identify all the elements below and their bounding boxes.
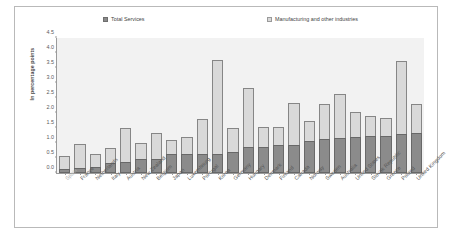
stacked-bar[interactable]: [243, 88, 254, 173]
stacked-bar[interactable]: [120, 128, 131, 173]
bar-column[interactable]: [302, 38, 317, 173]
bar-segment-manufacturing[interactable]: [334, 94, 345, 138]
bar-column[interactable]: [195, 38, 210, 173]
bar-column[interactable]: [57, 38, 72, 173]
bar-column[interactable]: [72, 38, 87, 173]
bar-segment-manufacturing[interactable]: [243, 88, 254, 147]
bar-column[interactable]: [271, 38, 286, 173]
stacked-bar[interactable]: [288, 103, 299, 173]
stacked-bar[interactable]: [319, 104, 330, 173]
bar-segment-manufacturing[interactable]: [365, 116, 376, 136]
bar-column[interactable]: [225, 38, 240, 173]
bar-segment-manufacturing[interactable]: [227, 128, 238, 152]
bar-segment-manufacturing[interactable]: [120, 128, 131, 162]
bar-column[interactable]: [286, 38, 301, 173]
bar-segment-manufacturing[interactable]: [319, 104, 330, 139]
bar-segment-manufacturing[interactable]: [59, 156, 70, 169]
bar-column[interactable]: [103, 38, 118, 173]
legend-item-manufacturing: Manufacturing and other industries: [267, 16, 358, 22]
chart-frame: Total Services Manufacturing and other i…: [14, 6, 438, 228]
legend-swatch-total-services: [103, 17, 108, 22]
bar-column[interactable]: [179, 38, 194, 173]
bar-column[interactable]: [409, 38, 424, 173]
stacked-bar[interactable]: [212, 60, 223, 173]
stacked-bar[interactable]: [227, 128, 238, 173]
y-axis-tick-label: 2.0: [47, 104, 55, 110]
plot-area: 0.00.51.01.52.02.53.03.54.04.5: [56, 38, 424, 174]
bar-column[interactable]: [210, 38, 225, 173]
y-axis-tick-label: 1.5: [47, 119, 55, 125]
y-axis-tick-label: 3.0: [47, 74, 55, 80]
bar-segment-manufacturing[interactable]: [197, 119, 208, 154]
bar-segment-manufacturing[interactable]: [396, 61, 407, 134]
bar-segment-manufacturing[interactable]: [258, 127, 269, 147]
stacked-bar[interactable]: [411, 104, 422, 173]
y-axis-title: In percentage points: [29, 31, 35, 117]
bar-segment-manufacturing[interactable]: [288, 103, 299, 145]
y-axis-tick-label: 0.0: [47, 164, 55, 170]
y-axis-tick-label: 0.5: [47, 149, 55, 155]
bar-column[interactable]: [256, 38, 271, 173]
y-axis-tick-label: 1.0: [47, 134, 55, 140]
bar-column[interactable]: [149, 38, 164, 173]
bar-segment-manufacturing[interactable]: [411, 104, 422, 133]
bar-segment-manufacturing[interactable]: [350, 112, 361, 137]
bar-column[interactable]: [241, 38, 256, 173]
bar-segment-manufacturing[interactable]: [212, 60, 223, 154]
y-axis-tick-label: 4.5: [47, 29, 55, 35]
bar-series-group: [57, 38, 424, 173]
bar-column[interactable]: [133, 38, 148, 173]
bar-column[interactable]: [348, 38, 363, 173]
x-axis-labels: SpainFranceNetherlandsItalyAustriaNew Ze…: [56, 176, 423, 231]
bar-segment-manufacturing[interactable]: [380, 118, 391, 136]
bar-segment-manufacturing[interactable]: [304, 121, 315, 141]
bar-column[interactable]: [88, 38, 103, 173]
bar-segment-manufacturing[interactable]: [166, 140, 177, 154]
bar-column[interactable]: [378, 38, 393, 173]
y-axis-tick-label: 2.5: [47, 89, 55, 95]
bar-segment-manufacturing[interactable]: [135, 143, 146, 159]
bar-column[interactable]: [317, 38, 332, 173]
stacked-bar[interactable]: [334, 94, 345, 173]
y-axis-tick-label: 4.0: [47, 44, 55, 50]
bar-segment-manufacturing[interactable]: [74, 144, 85, 168]
chart-legend: Total Services Manufacturing and other i…: [15, 16, 437, 28]
legend-label-manufacturing: Manufacturing and other industries: [275, 16, 358, 22]
bar-segment-manufacturing[interactable]: [181, 137, 192, 154]
bar-column[interactable]: [363, 38, 378, 173]
bar-column[interactable]: [332, 38, 347, 173]
bar-column[interactable]: [164, 38, 179, 173]
bar-column[interactable]: [118, 38, 133, 173]
bar-segment-manufacturing[interactable]: [273, 127, 284, 146]
legend-label-total-services: Total Services: [111, 16, 145, 22]
legend-swatch-manufacturing: [267, 17, 272, 22]
y-axis-tick-label: 3.5: [47, 59, 55, 65]
legend-item-total-services: Total Services: [103, 16, 145, 22]
